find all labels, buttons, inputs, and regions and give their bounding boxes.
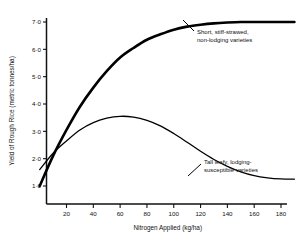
tall-variety-annotation-line: susceptible varieties: [204, 167, 258, 173]
x-tick-label: 80: [143, 210, 150, 217]
y-tick-label: 7·0: [32, 18, 42, 25]
chart-container: 1·02·03·04·05·06·07·0 204060801001201401…: [0, 0, 304, 252]
y-tick-label: 5·0: [32, 73, 42, 80]
y-axis-title: Yield of Rough Rice (metric tonnes/ha): [8, 56, 16, 166]
x-tick-label: 20: [63, 210, 70, 217]
x-axis-title: Nitrogen Applied (kg/ha): [133, 224, 202, 232]
y-tick-label: 4·0: [32, 100, 42, 107]
short-variety-annotation-line: non-lodging varieties: [197, 37, 252, 43]
rice-yield-nitrogen-chart: 1·02·03·04·05·06·07·0 204060801001201401…: [0, 0, 304, 252]
y-tick-label: 3·0: [32, 128, 42, 135]
x-tick-label: 120: [195, 210, 206, 217]
short-variety-annotation-line: Short, stiff-strawed,: [197, 29, 249, 35]
x-tick-label: 60: [117, 210, 124, 217]
x-tick-label: 180: [276, 210, 287, 217]
x-tick-label: 100: [169, 210, 180, 217]
y-tick-label: 6·0: [32, 46, 42, 53]
tall-variety-annotation-line: Tall leafy, lodging-: [204, 159, 252, 165]
x-tick-label: 40: [90, 210, 97, 217]
y-tick-label: 2·0: [32, 155, 42, 162]
x-tick-label: 160: [249, 210, 260, 217]
x-tick-label: 140: [222, 210, 233, 217]
